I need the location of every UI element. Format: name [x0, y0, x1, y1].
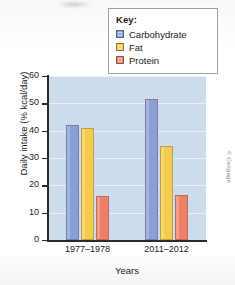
legend-swatch-carbohydrate: [116, 30, 124, 38]
y-axis-tick: [42, 103, 48, 104]
figure: Key: Carbohydrate Fat Protein 0102030405…: [0, 0, 235, 285]
y-axis-tick: [42, 158, 48, 159]
y-axis-tick-label: 0: [0, 234, 39, 244]
bar-carbohydrate-1: [66, 125, 79, 240]
bar-protein-2: [175, 195, 188, 240]
bar-group: [66, 76, 109, 240]
legend-label-carbohydrate: Carbohydrate: [129, 29, 187, 40]
y-axis-tick: [42, 240, 48, 241]
y-axis-tick: [42, 76, 48, 77]
scan-artifact: [56, 0, 92, 9]
bar-protein-1: [96, 196, 109, 240]
legend-item-fat: Fat: [116, 41, 211, 53]
bar-group: [145, 76, 188, 240]
y-axis-tick: [42, 131, 48, 132]
bar-fat-2: [160, 146, 173, 240]
y-axis-tick-label: 10: [0, 207, 39, 217]
legend-label-fat: Fat: [129, 42, 143, 53]
plot-area: [48, 76, 206, 240]
legend-item-carbohydrate: Carbohydrate: [116, 28, 211, 40]
x-axis-line: [47, 240, 207, 242]
copyright-credit: © Cengage: [226, 151, 232, 183]
chart-legend: Key: Carbohydrate Fat Protein: [108, 8, 218, 74]
y-axis-tick: [42, 185, 48, 186]
bar-fat-1: [81, 128, 94, 240]
y-axis-title: Daily intake (% kcal/day): [18, 49, 29, 199]
y-axis-tick: [42, 213, 48, 214]
x-axis-category-label: 2011–2012: [132, 244, 202, 254]
bar-carbohydrate-2: [145, 99, 158, 240]
legend-label-protein: Protein: [129, 55, 159, 66]
legend-swatch-protein: [116, 56, 124, 64]
x-axis-title: Years: [48, 265, 206, 276]
x-axis-category-label: 1977–1978: [53, 244, 123, 254]
legend-title: Key:: [116, 14, 211, 25]
legend-swatch-fat: [116, 43, 124, 51]
legend-item-protein: Protein: [116, 54, 211, 66]
